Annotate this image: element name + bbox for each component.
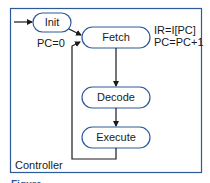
arrow-init-fetch <box>69 29 81 35</box>
controller-label: Controller <box>15 159 63 171</box>
state-fetch-label: Fetch <box>82 31 150 43</box>
fetch-action-pc: PC=PC+1 <box>154 36 204 48</box>
fetch-action-ir: IR=I[PC] <box>154 24 196 36</box>
state-execute-label: Execute <box>82 131 150 143</box>
figure-caption: Figure <box>11 180 42 183</box>
init-action: PC=0 <box>37 37 65 49</box>
state-init-label: Init <box>33 16 71 28</box>
state-decode-label: Decode <box>82 91 150 103</box>
